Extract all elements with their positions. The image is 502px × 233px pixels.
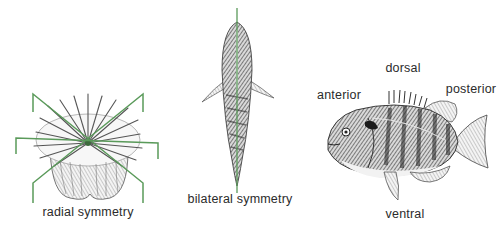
caption-radial-symmetry: radial symmetry	[42, 205, 133, 219]
label-dorsal: dorsal	[385, 61, 420, 75]
label-anterior: anterior	[317, 88, 361, 102]
radial-specimen-illustration	[34, 94, 142, 199]
caption-bilateral-symmetry: bilateral symmetry	[187, 192, 292, 206]
bilateral-fish-illustration	[202, 22, 274, 186]
label-ventral: ventral	[386, 207, 425, 221]
symmetry-figure: radial symmetry bilateral symmetry anter…	[0, 0, 502, 233]
label-posterior: posterior	[446, 82, 496, 96]
sunfish-illustration	[328, 90, 488, 200]
